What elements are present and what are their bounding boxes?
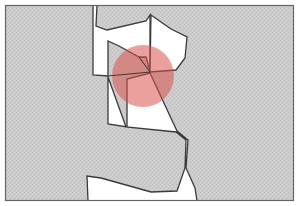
figure-canvas (0, 0, 299, 206)
process-zone-icon (112, 45, 174, 107)
figure-root (0, 0, 299, 206)
